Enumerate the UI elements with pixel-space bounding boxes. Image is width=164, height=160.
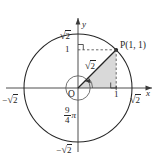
- radicand: 2: [13, 94, 19, 105]
- radicand: 2: [135, 94, 141, 105]
- x-axis-right-label-sqrt2: √2: [130, 90, 141, 106]
- minus-sign-y-bottom: −: [56, 145, 61, 155]
- y-axis-top-label-sqrt2: √2: [60, 26, 71, 42]
- pi-symbol: π: [72, 111, 77, 120]
- origin-label: O: [68, 90, 75, 100]
- radicand: 2: [65, 30, 71, 41]
- x-axis-label: x: [146, 89, 150, 98]
- math-figure: y x O √2 1 −√2 −√2 1 √2 P(1, 1) √2 9 4 π: [0, 0, 164, 160]
- minus-sign-x-left: −: [2, 95, 7, 105]
- x-axis-one-label: 1: [114, 90, 119, 99]
- angle-label: 9 4 π: [64, 106, 76, 125]
- radicand: 2: [67, 144, 73, 155]
- angle-numerator: 9: [64, 106, 71, 115]
- y-axis-one-label: 1: [65, 45, 70, 54]
- x-axis-left-label-neg-sqrt2: −√2: [2, 90, 18, 106]
- sqrt-glyph-radius: √2: [85, 61, 96, 71]
- radicand: 2: [90, 60, 96, 71]
- sqrt-glyph-x-left: √2: [8, 95, 19, 105]
- y-axis-bottom-label-neg-sqrt2: −√2: [56, 140, 72, 156]
- right-angle-marker-at-y-one: [78, 45, 83, 50]
- angle-fraction: 9 4: [64, 106, 71, 125]
- sqrt-glyph-x-right: √2: [130, 95, 141, 105]
- y-axis-label: y: [82, 20, 86, 29]
- sqrt-glyph-y-bottom: √2: [62, 145, 73, 155]
- sqrt-glyph-y-top: √2: [60, 31, 71, 41]
- point-P-label: P(1, 1): [120, 41, 146, 51]
- radius-length-label-sqrt2: √2: [85, 61, 96, 71]
- angle-denominator: 4: [64, 115, 71, 125]
- y-axis-arrowhead: [76, 18, 81, 25]
